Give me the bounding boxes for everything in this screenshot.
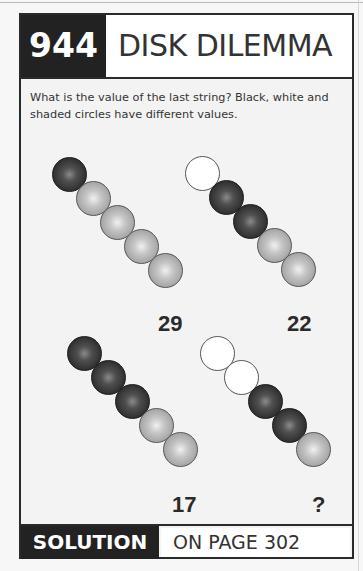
string-value-label: ? <box>312 492 325 518</box>
puzzle-description: What is the value of the last string? Bl… <box>30 89 345 123</box>
shaded-circle <box>148 253 183 288</box>
shaded-circle <box>281 252 316 287</box>
solution-page-reference: ON PAGE 302 <box>161 528 350 557</box>
page-edge-rule <box>358 0 359 571</box>
string-value-label: 22 <box>287 311 311 337</box>
puzzle-card: 944 DISK DILEMMA What is the value of th… <box>19 13 354 559</box>
puzzle-title: DISK DILEMMA <box>118 15 332 77</box>
string-value-label: 17 <box>172 492 196 518</box>
shaded-circle <box>163 432 198 467</box>
puzzle-number: 944 <box>21 15 106 77</box>
solution-footer: SOLUTION ON PAGE 302 <box>21 524 352 559</box>
page-top-rule <box>0 2 363 3</box>
string-value-label: 29 <box>158 311 182 337</box>
shaded-circle <box>296 432 331 467</box>
puzzle-header: 944 DISK DILEMMA <box>21 15 352 79</box>
solution-label: SOLUTION <box>21 526 159 559</box>
